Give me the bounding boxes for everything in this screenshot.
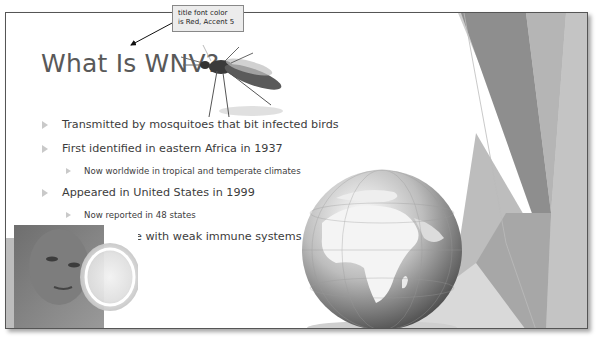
bullet-item: First identified in eastern Africa in 19… xyxy=(36,137,339,161)
globe-image xyxy=(284,168,479,329)
bullet-arrow-icon xyxy=(66,168,71,174)
callout-line-1: title font color xyxy=(178,9,243,18)
bullet-item: Transmitted by mosquitoes that bit infec… xyxy=(36,113,339,137)
person-with-petri-dish-image xyxy=(14,225,138,329)
callout-line-2: is Red, Accent 5 xyxy=(178,18,243,27)
mosquito-image xyxy=(181,43,301,121)
slide: What Is WNV? Transmitted by mosquitoes t… xyxy=(5,12,588,329)
bullet-arrow-icon xyxy=(42,145,48,153)
bullet-arrow-icon xyxy=(42,121,48,129)
annotation-callout: title font color is Red, Accent 5 xyxy=(172,5,244,32)
bullet-arrow-icon xyxy=(66,212,71,218)
bullet-arrow-icon xyxy=(42,189,48,197)
